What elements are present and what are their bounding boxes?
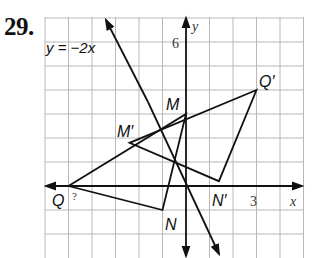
y-axis-label: y (190, 19, 199, 34)
vertex-label-m: M (166, 96, 180, 113)
vertex-label-n-prime: N′ (212, 192, 228, 209)
coordinate-graph: y = −2x y x 6 3 Q ? M N Q′ M′ N′ (0, 0, 317, 258)
vertex-label-m-prime: M′ (117, 123, 134, 140)
vertex-label-n: N (165, 216, 177, 233)
y-tick-6: 6 (172, 36, 179, 51)
vertex-label-q-prime: Q′ (259, 73, 275, 90)
reflection-line-label: y = −2x (45, 39, 96, 56)
x-tick-3: 3 (250, 194, 257, 209)
vertex-label-q: Q (52, 192, 64, 209)
annotation-question-mark: ? (72, 190, 77, 202)
x-axis-label: x (289, 194, 297, 209)
